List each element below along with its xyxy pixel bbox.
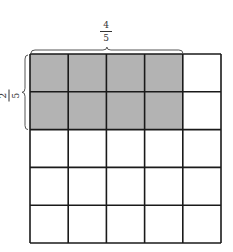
left-fraction-numerator: 2 xyxy=(0,90,8,102)
left-brace xyxy=(22,55,28,130)
top-brace xyxy=(31,47,183,53)
left-fraction-bar xyxy=(9,90,10,102)
left-fraction-label: 2 5 xyxy=(0,90,21,102)
left-fraction-denominator: 5 xyxy=(11,90,21,102)
top-fraction-bar xyxy=(100,31,112,32)
top-fraction-numerator: 4 xyxy=(100,20,112,30)
top-fraction-label: 4 5 xyxy=(100,20,112,43)
top-fraction-denominator: 5 xyxy=(100,33,112,43)
area-model-svg xyxy=(0,0,233,252)
